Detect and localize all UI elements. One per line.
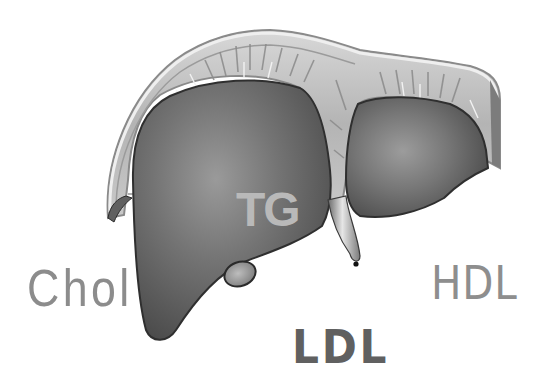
triglycerides-label: TG — [236, 186, 299, 234]
duct-opening — [353, 261, 358, 266]
liver-diagram: Chol TG HDL LDL — [0, 0, 548, 389]
hdl-label: HDL — [431, 260, 518, 306]
ldl-label: LDL — [292, 324, 389, 370]
left-lobe — [346, 97, 488, 217]
right-lobe — [133, 80, 331, 339]
cholesterol-label: Chol — [27, 262, 133, 314]
